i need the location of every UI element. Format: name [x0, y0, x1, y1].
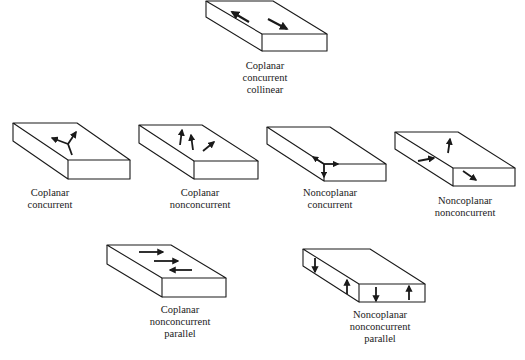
caption-line: Noncoplanar: [325, 309, 435, 321]
slab-coplanar-concurrent-collinear: [206, 1, 327, 51]
caption-line: Coplanar: [220, 60, 310, 72]
caption-line: Noncoplanar: [415, 195, 515, 207]
caption-line: parallel: [130, 328, 230, 340]
nonconcurrent-force-arrows: [180, 130, 214, 151]
noncoplanar-concurrent-arrows: [313, 157, 338, 177]
caption-coplanar-nonconcurrent: Coplanar nonconcurrent: [150, 187, 250, 211]
slab-noncoplanar-nonconcurrent-parallel: [303, 249, 425, 302]
caption-line: concurrent: [10, 199, 90, 211]
caption-line: concurrent: [280, 199, 380, 211]
caption-noncoplanar-nonconcurrent-parallel: Noncoplanar nonconcurrent parallel: [325, 309, 435, 345]
slab-coplanar-nonconcurrent-parallel: [107, 245, 226, 297]
caption-coplanar-nonconcurrent-parallel: Coplanar nonconcurrent parallel: [130, 304, 230, 340]
slab-noncoplanar-nonconcurrent: [395, 132, 515, 186]
caption-line: Noncoplanar: [280, 187, 380, 199]
caption-line: parallel: [325, 333, 435, 345]
caption-line: nonconcurrent: [325, 321, 435, 333]
noncoplanar-nonconcurrent-arrows: [418, 139, 476, 180]
slab-coplanar-nonconcurrent: [139, 125, 258, 179]
caption-line: Coplanar: [150, 187, 250, 199]
parallel-force-arrows: [139, 252, 192, 270]
caption-coplanar-concurrent-collinear: Coplanar concurrent collinear: [220, 60, 310, 96]
caption-noncoplanar-nonconcurrent: Noncoplanar nonconcurrent: [415, 195, 515, 219]
force-systems-diagram: [0, 0, 525, 360]
caption-line: nonconcurrent: [150, 199, 250, 211]
slab-noncoplanar-concurrent: [267, 127, 386, 181]
caption-line: collinear: [220, 84, 310, 96]
caption-noncoplanar-concurrent: Noncoplanar concurrent: [280, 187, 380, 211]
caption-line: nonconcurrent: [130, 316, 230, 328]
caption-line: nonconcurrent: [415, 207, 515, 219]
caption-line: Coplanar: [130, 304, 230, 316]
collinear-force-arrows: [232, 12, 287, 29]
caption-line: concurrent: [220, 72, 310, 84]
caption-coplanar-concurrent: Coplanar concurrent: [10, 187, 90, 211]
caption-line: Coplanar: [10, 187, 90, 199]
slab-coplanar-concurrent: [13, 123, 130, 179]
